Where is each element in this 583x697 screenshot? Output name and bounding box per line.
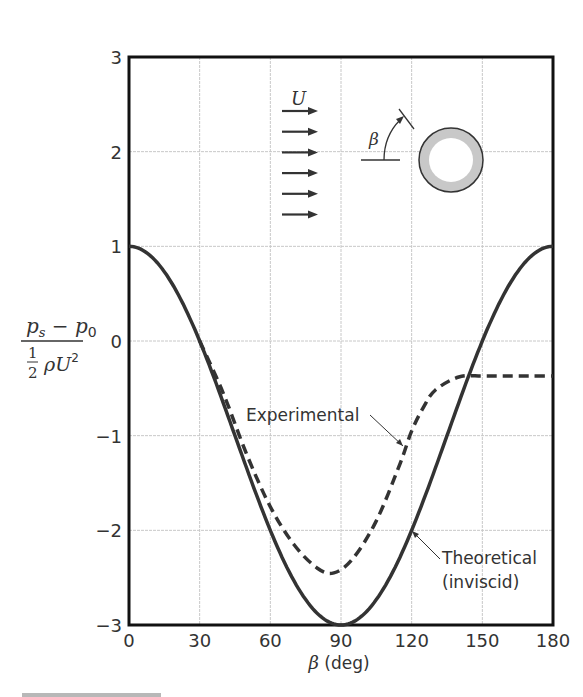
y-tick-label: −1 (95, 426, 122, 447)
y-tick-label: 0 (111, 331, 122, 352)
grid-lines (129, 57, 553, 625)
svg-text:1: 1 (28, 344, 38, 362)
experimental-annotation: Experimental (246, 405, 403, 446)
x-tick-label: 30 (188, 630, 211, 651)
flow-arrows (282, 107, 318, 219)
experimental-curve (200, 341, 553, 574)
x-axis-ticks: 0306090120150180 (123, 630, 570, 651)
svg-text:ps − p0: ps − p0 (26, 314, 97, 340)
y-tick-label: −3 (95, 615, 122, 636)
caption-bar (22, 693, 161, 697)
theoretical-label: Theoretical (441, 548, 537, 568)
pressure-distribution-chart: −3−2−10123 0306090120150180 ps − p0 1 2 … (0, 0, 583, 697)
x-tick-label: 90 (330, 630, 353, 651)
theoretical-sublabel: (inviscid) (442, 572, 519, 592)
flow-inset: U β (282, 88, 483, 219)
angle-label: β (368, 129, 379, 149)
y-tick-label: −2 (95, 520, 122, 541)
x-tick-label: 0 (123, 630, 134, 651)
flow-velocity-label: U (291, 88, 307, 109)
x-tick-label: 150 (465, 630, 499, 651)
experimental-label: Experimental (246, 405, 359, 425)
y-tick-label: 3 (111, 47, 122, 68)
cylinder-interior (429, 138, 473, 182)
x-axis-label: β (deg) (307, 652, 369, 673)
x-tick-label: 120 (394, 630, 428, 651)
svg-text:ρU2: ρU2 (43, 351, 79, 375)
y-tick-label: 1 (111, 236, 122, 257)
y-axis-label: ps − p0 1 2 ρU2 (21, 314, 97, 382)
x-tick-label: 60 (259, 630, 282, 651)
y-tick-label: 2 (111, 142, 122, 163)
theoretical-annotation: Theoretical (inviscid) (412, 531, 537, 592)
y-axis-ticks: −3−2−10123 (95, 47, 122, 636)
svg-text:2: 2 (28, 364, 38, 382)
x-tick-label: 180 (536, 630, 570, 651)
angle-arc (384, 120, 400, 160)
